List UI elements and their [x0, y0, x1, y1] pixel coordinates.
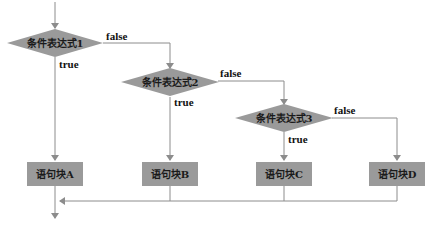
decision-cond1: 条件表达式1	[7, 29, 103, 57]
decision-cond3: 条件表达式3	[235, 104, 333, 132]
block-a-label: 语句块A	[36, 168, 74, 180]
decision-cond1-label: 条件表达式1	[26, 37, 84, 49]
block-a: 语句块A	[27, 162, 83, 186]
cond1-true-label: true	[59, 58, 79, 70]
decision-cond3-label: 条件表达式3	[255, 112, 313, 124]
cond2-false-label: false	[220, 67, 242, 79]
block-b: 语句块B	[142, 162, 198, 186]
block-d-label: 语句块D	[378, 168, 417, 180]
block-c-label: 语句块C	[265, 168, 303, 180]
cond3-false-label: false	[334, 104, 356, 116]
flowchart-canvas: 条件表达式1 false true 条件表达式2 false true 条件表达…	[0, 0, 433, 226]
block-b-label: 语句块B	[151, 168, 189, 180]
cond2-true-label: true	[174, 96, 194, 108]
cond3-true-label: true	[288, 133, 308, 145]
decision-cond2: 条件表达式2	[121, 68, 219, 96]
decision-cond2-label: 条件表达式2	[141, 76, 199, 88]
block-d: 语句块D	[369, 162, 425, 186]
block-c: 语句块C	[256, 162, 312, 186]
cond1-false-label: false	[106, 30, 128, 42]
